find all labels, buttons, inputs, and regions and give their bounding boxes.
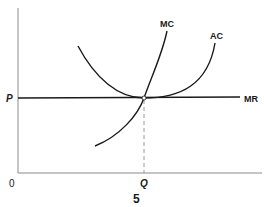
- ac-label: AC: [210, 31, 223, 41]
- figure-number: 5: [133, 192, 140, 206]
- cost-curve-diagram: P MR MC AC Q 0 5: [0, 0, 264, 207]
- price-label: P: [6, 93, 13, 104]
- mr-label: MR: [244, 94, 258, 104]
- mc-curve: [95, 31, 167, 146]
- mr-line: [18, 97, 240, 98]
- equilibrium-point: [142, 96, 146, 100]
- quantity-label: Q: [140, 178, 148, 189]
- origin-label: 0: [9, 178, 15, 189]
- mc-label: MC: [160, 19, 174, 29]
